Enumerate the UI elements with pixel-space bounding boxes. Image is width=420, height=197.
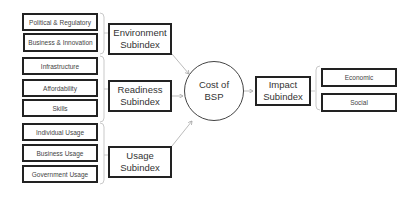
readiness-subindex: ReadinessSubindex [108,80,172,112]
environment-subindex: EnvironmentSubindex [108,23,172,55]
usage-subindex-line2: Subindex [120,162,160,174]
environment-subindex-line1: Environment [113,27,166,39]
readiness-subindex-line2: Subindex [118,96,163,108]
impact-subindex-line2: Subindex [263,91,303,103]
environment-subindex-line2: Subindex [113,39,166,51]
center-line2: BSP [199,91,229,103]
item-political-regulatory: Political & Regulatory [22,13,98,31]
item-skills: Skills [22,99,98,117]
item-social: Social [321,93,397,112]
item-economic: Economic [321,68,397,87]
cost-of-bsp-node: Cost ofBSP [184,61,244,121]
item-affordability: Affordability [22,79,98,97]
item-government-usage: Government Usage [22,165,98,183]
usage-subindex-line1: Usage [120,150,160,162]
impact-subindex-line1: Impact [263,79,303,91]
readiness-subindex-line1: Readiness [118,84,163,96]
center-line1: Cost of [199,79,229,91]
usage-subindex: UsageSubindex [108,146,172,178]
item-business-usage: Business Usage [22,144,98,162]
item-individual-usage: Individual Usage [22,123,98,141]
impact-subindex: ImpactSubindex [255,76,311,106]
item-infrastructure: Infrastructure [22,57,98,75]
item-business-innovation: Business & Innovation [23,33,98,52]
